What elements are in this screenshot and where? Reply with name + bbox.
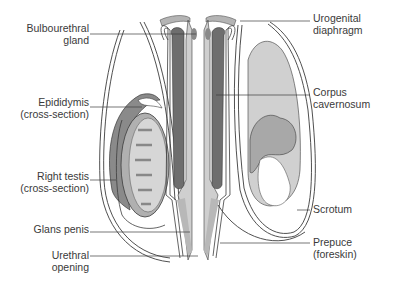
penis-structure	[160, 16, 236, 260]
label-prepuce: Prepuce (foreskin)	[313, 236, 357, 260]
label-right-testis: Right testis (cross-section)	[20, 170, 89, 194]
label-bulbourethral-gland: Bulbourethral gland	[27, 22, 89, 46]
left-testis-group	[109, 94, 169, 229]
label-glans-penis: Glans penis	[34, 223, 89, 235]
label-scrotum: Scrotum	[313, 203, 352, 215]
label-urethral-opening: Urethral opening	[52, 249, 89, 273]
label-urogenital-diaphragm: Urogenital diaphragm	[313, 12, 363, 36]
label-epididymis: Epididymis (cross-section)	[20, 96, 89, 120]
right-testis-group	[248, 41, 300, 206]
label-corpus-cavernosum: Corpus cavernosum	[313, 86, 370, 110]
